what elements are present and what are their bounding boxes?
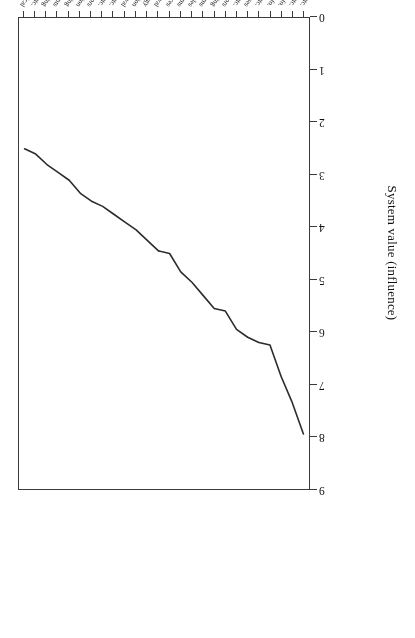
y-axis-tick-label: 6: [319, 327, 341, 339]
x-axis-tick: [90, 11, 91, 17]
y-axis-tick: [310, 69, 317, 70]
y-axis-tick: [310, 436, 317, 437]
y-axis-tick-label: 8: [319, 432, 341, 444]
x-axis-tick: [79, 11, 80, 17]
x-axis-tick: [236, 11, 237, 17]
y-axis-tick-label: 3: [319, 169, 341, 181]
y-axis-tick-label: 7: [319, 379, 341, 391]
y-axis-tick-label: 4: [319, 221, 341, 233]
y-axis-tick: [310, 279, 317, 280]
x-axis-tick: [45, 11, 46, 17]
y-axis-tick-label: 1: [319, 64, 341, 76]
y-axis-tick-label: 2: [319, 116, 341, 128]
y-axis-title: System value (influence): [383, 17, 401, 490]
y-axis-tick: [310, 121, 317, 122]
y-axis-title-text: System value (influence): [384, 186, 400, 321]
x-axis-tick: [124, 11, 125, 17]
x-axis-tick: [157, 11, 158, 17]
y-axis-tick: [310, 384, 317, 385]
x-axis-tick: [112, 11, 113, 17]
series-line: [25, 149, 304, 434]
x-axis-tick: [34, 11, 35, 17]
y-axis-tick: [310, 174, 317, 175]
y-axis-tick: [310, 16, 317, 17]
x-axis-tick: [292, 11, 293, 17]
x-axis-tick: [202, 11, 203, 17]
x-axis-tick: [214, 11, 215, 17]
x-axis-category-label-text: Semiconductor Device Manufacturing etc.: [299, 0, 374, 8]
x-axis-tick: [247, 11, 248, 17]
x-axis-tick: [303, 11, 304, 17]
x-axis-tick: [225, 11, 226, 17]
x-axis-tick: [56, 11, 57, 17]
y-axis-tick-label: 5: [319, 274, 341, 286]
figure-rotation-wrapper: System value (influence) 0123456789 Semi…: [0, 0, 415, 638]
y-axis-tick: [310, 489, 317, 490]
x-axis-tick: [281, 11, 282, 17]
x-axis-tick: [258, 11, 259, 17]
x-axis-tick: [180, 11, 181, 17]
x-axis-tick: [101, 11, 102, 17]
x-axis-tick: [191, 11, 192, 17]
x-axis-tick: [270, 11, 271, 17]
x-axis-tick: [146, 11, 147, 17]
chart-figure: System value (influence) 0123456789 Semi…: [0, 0, 415, 638]
x-axis-tick: [23, 11, 24, 17]
y-axis-tick: [310, 226, 317, 227]
y-axis-tick-label: 9: [319, 484, 341, 496]
y-axis-tick-label: 0: [319, 11, 341, 23]
x-axis-tick: [135, 11, 136, 17]
x-axis-tick: [68, 11, 69, 17]
x-axis-tick: [169, 11, 170, 17]
y-axis-tick: [310, 331, 317, 332]
